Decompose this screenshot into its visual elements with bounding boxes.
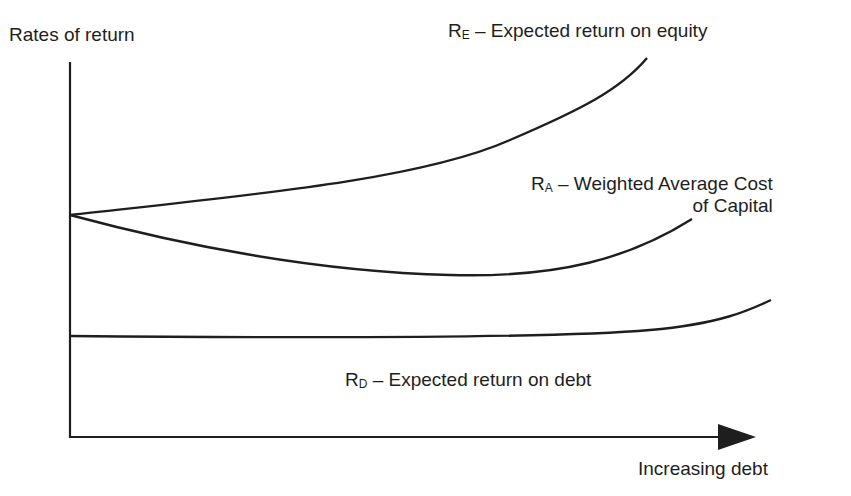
re-symbol: R	[448, 20, 462, 41]
x-axis-label: Increasing debt	[638, 458, 768, 480]
x-axis-arrowhead-icon	[718, 424, 756, 450]
ra-line-2: of Capital	[531, 195, 773, 217]
rd-curve-label: RD – Expected return on debt	[345, 369, 591, 391]
rd-curve	[70, 300, 771, 337]
re-subscript: E	[462, 28, 470, 42]
diagram-canvas	[0, 0, 851, 496]
y-axis-label: Rates of return	[9, 24, 135, 46]
ra-curve-label: RA – Weighted Average Cost of Capital	[531, 173, 773, 217]
rd-symbol: R	[345, 369, 359, 390]
rd-subscript: D	[359, 377, 368, 391]
rd-description: – Expected return on debt	[367, 369, 591, 390]
re-description: – Expected return on equity	[470, 20, 708, 41]
ra-line-1: RA – Weighted Average Cost	[531, 173, 773, 195]
ra-subscript: A	[545, 181, 553, 195]
ra-description: – Weighted Average Cost	[553, 173, 773, 194]
ra-curve	[70, 215, 692, 275]
ra-symbol: R	[531, 173, 545, 194]
re-curve-label: RE – Expected return on equity	[448, 20, 707, 42]
